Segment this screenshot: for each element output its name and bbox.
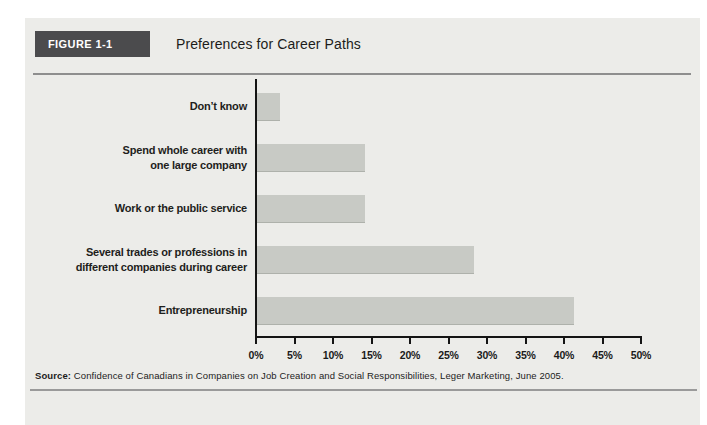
figure-panel: FIGURE 1-1 Preferences for Career Paths … — [25, 18, 700, 425]
source-label: Source: — [35, 370, 71, 381]
axis-tick-label: 0% — [249, 349, 264, 361]
bar-track — [255, 246, 642, 274]
bar-track — [255, 297, 642, 325]
bar — [257, 297, 574, 325]
source-text: Confidence of Canadians in Companies on … — [71, 370, 564, 381]
axis-tick-label: 15% — [361, 349, 381, 361]
source-note: Source: Confidence of Canadians in Compa… — [35, 370, 564, 381]
category-label: Work or the public service — [25, 201, 255, 215]
axis-tick — [409, 338, 411, 344]
axis-tick-label: 45% — [592, 349, 612, 361]
figure-tag: FIGURE 1-1 — [35, 31, 150, 57]
axis-tick — [640, 338, 642, 344]
header-rule — [33, 73, 691, 75]
chart-row: Several trades or professions in differe… — [25, 234, 642, 285]
y-axis-line — [255, 79, 257, 336]
category-label: Don’t know — [25, 99, 255, 113]
category-label: Entrepreneurship — [25, 303, 255, 317]
page: FIGURE 1-1 Preferences for Career Paths … — [0, 0, 707, 425]
bar-track — [255, 144, 642, 172]
axis-tick — [371, 338, 373, 344]
axis-tick-label: 40% — [554, 349, 574, 361]
axis-tick-label: 50% — [631, 349, 651, 361]
category-label: Several trades or professions in differe… — [25, 245, 255, 274]
bottom-rule — [30, 389, 697, 391]
axis-tick-label: 30% — [477, 349, 497, 361]
x-axis-line — [255, 336, 642, 345]
bar — [257, 93, 280, 121]
x-axis-labels: 0%5%10%15%20%25%30%35%40%45%50% — [255, 349, 642, 363]
figure-header: FIGURE 1-1 Preferences for Career Paths — [35, 31, 361, 57]
axis-tick-label: 20% — [400, 349, 420, 361]
axis-tick — [294, 338, 296, 344]
chart-row: Don’t know — [25, 81, 642, 132]
axis-tick-label: 25% — [438, 349, 458, 361]
chart-row: Spend whole career with one large compan… — [25, 132, 642, 183]
bar-track — [255, 93, 642, 121]
bar — [257, 246, 474, 274]
chart-row: Work or the public service — [25, 183, 642, 234]
axis-tick — [563, 338, 565, 344]
axis-tick — [602, 338, 604, 344]
axis-tick-label: 5% — [287, 349, 302, 361]
bar — [257, 144, 365, 172]
category-label: Spend whole career with one large compan… — [25, 143, 255, 172]
chart-row: Entrepreneurship — [25, 285, 642, 336]
bar-track — [255, 195, 642, 223]
figure-title: Preferences for Career Paths — [176, 36, 361, 52]
chart-rows: Don’t knowSpend whole career with one la… — [25, 81, 642, 336]
axis-tick — [486, 338, 488, 344]
axis-tick-label: 35% — [515, 349, 535, 361]
axis-tick — [525, 338, 527, 344]
axis-tick — [255, 338, 257, 344]
bar — [257, 195, 365, 223]
axis-tick — [448, 338, 450, 344]
axis-tick — [332, 338, 334, 344]
axis-tick-label: 10% — [323, 349, 343, 361]
bar-chart: Don’t knowSpend whole career with one la… — [25, 81, 665, 363]
